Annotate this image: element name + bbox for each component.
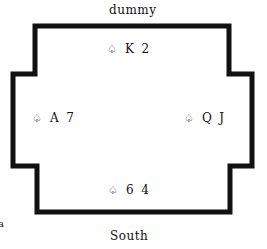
north-label: dummy	[109, 3, 156, 17]
north-hand: ♤ K 2	[107, 42, 149, 56]
north-cards: K 2	[125, 42, 149, 56]
spade-icon: ♤	[32, 112, 42, 125]
west-hand: ♤ A 7	[32, 111, 74, 125]
west-cards: A 7	[50, 111, 74, 125]
south-cards: 6 4	[126, 183, 149, 197]
spade-icon: ♤	[184, 112, 194, 125]
south-hand: ♤ 6 4	[108, 183, 149, 197]
spade-icon: ♤	[108, 184, 118, 197]
east-cards: Q J	[202, 111, 224, 125]
text-fragment: a	[0, 218, 4, 229]
spade-icon: ♤	[107, 43, 117, 56]
east-hand: ♤ Q J	[184, 111, 224, 125]
south-label: South	[110, 229, 148, 243]
